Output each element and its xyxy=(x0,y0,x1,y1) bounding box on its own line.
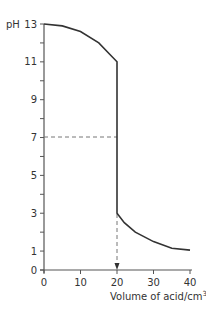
y-tick-label: 11 xyxy=(24,56,37,67)
y-axis-label: pH xyxy=(6,19,20,30)
y-tick-label: 13 xyxy=(24,19,37,30)
x-tick-label: 20 xyxy=(111,277,124,288)
x-tick-label: 0 xyxy=(41,277,47,288)
y-tick-label: 5 xyxy=(31,170,37,181)
y-tick-label: 9 xyxy=(31,94,37,105)
arrow-down-icon xyxy=(115,263,120,270)
y-tick-label: 0 xyxy=(31,265,37,276)
y-tick-label: 3 xyxy=(31,208,37,219)
y-tick-label: 1 xyxy=(31,246,37,257)
y-ticks: 0135791113 xyxy=(24,19,44,276)
x-tick-label: 40 xyxy=(184,277,197,288)
x-tick-label: 10 xyxy=(74,277,87,288)
titration-chart: 0135791113 010203040 pH Volume of acid/c… xyxy=(0,0,206,323)
y-tick-label: 7 xyxy=(31,132,37,143)
x-tick-label: 30 xyxy=(147,277,160,288)
x-ticks: 010203040 xyxy=(41,270,197,288)
x-axis-label: Volume of acid/cm3 xyxy=(110,290,206,302)
